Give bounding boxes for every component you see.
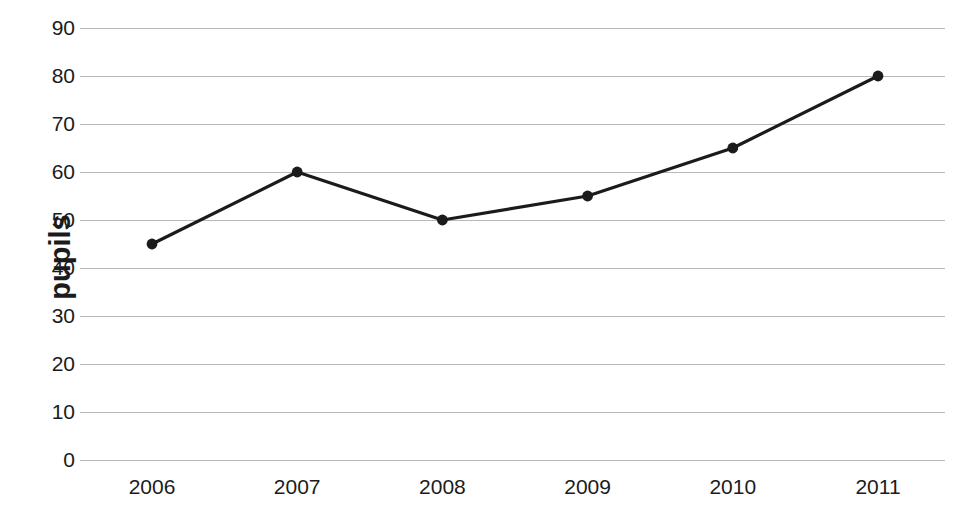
plot-area: 0102030405060708090 20062007200820092010… [0, 0, 957, 514]
data-point-2007 [292, 167, 303, 178]
data-point-2008 [437, 215, 448, 226]
series-line-pupils [152, 76, 878, 244]
data-series-layer [0, 0, 957, 514]
data-point-2010 [727, 143, 738, 154]
data-point-2011 [873, 71, 884, 82]
data-point-2006 [147, 239, 158, 250]
line-chart: pupils 0102030405060708090 2006200720082… [0, 0, 957, 514]
series-markers-pupils [147, 71, 884, 250]
data-point-2009 [582, 191, 593, 202]
